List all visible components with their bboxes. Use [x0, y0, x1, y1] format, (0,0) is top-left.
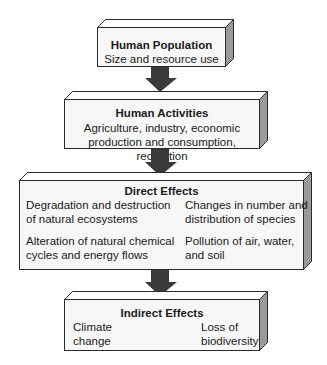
down-arrow-icon [144, 67, 178, 93]
effect-item: Pollution of air, water, and soil [185, 234, 294, 262]
human-activities-box: Human Activities Agriculture, industry, … [64, 91, 268, 149]
effect-line-1: Changes in number and [185, 198, 308, 212]
effect-item: Alteration of natural chemical cycles an… [26, 234, 174, 262]
box-line-1: Agriculture, industry, economic [64, 121, 260, 135]
box-title: Indirect Effects [64, 307, 260, 319]
effect-line-2: distribution of species [185, 212, 308, 226]
effect-line-1: Alteration of natural chemical [26, 234, 174, 248]
effect-line-2: biodiversity [201, 334, 259, 348]
effect-item: Climate change [73, 320, 112, 348]
effect-line-2: and soil [185, 248, 294, 262]
effect-line-1: Loss of [201, 320, 259, 334]
box-title: Human Activities [64, 107, 260, 119]
effect-line-1: Pollution of air, water, [185, 234, 294, 248]
box-subtitle: Size and resource use [97, 52, 226, 66]
effect-line-2: cycles and energy flows [26, 248, 174, 262]
effect-item: Loss of biodiversity [201, 320, 259, 348]
effect-line-2: of natural ecosystems [26, 212, 171, 226]
direct-effects-box: Direct Effects Degradation and destructi… [19, 172, 312, 270]
effect-item: Degradation and destruction of natural e… [26, 198, 171, 226]
human-population-box: Human Population Size and resource use [97, 19, 234, 67]
box-title: Human Population [97, 39, 226, 51]
effect-item: Changes in number and distribution of sp… [185, 198, 308, 226]
effect-line-2: change [73, 334, 112, 348]
effect-line-1: Climate [73, 320, 112, 334]
indirect-effects-box: Indirect Effects Climate change Loss of … [64, 291, 268, 351]
box-title: Direct Effects [19, 185, 304, 197]
effect-line-1: Degradation and destruction [26, 198, 171, 212]
